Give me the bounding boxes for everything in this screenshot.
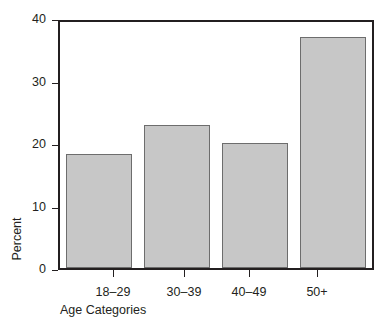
bar-40-49 bbox=[222, 143, 289, 268]
y-tick-label-0: 0 bbox=[39, 263, 46, 276]
x-tick-40-49 bbox=[249, 270, 250, 277]
bar-50-plus bbox=[300, 37, 367, 268]
bar-30-39 bbox=[144, 125, 211, 268]
x-axis-title: Age Categories bbox=[60, 303, 146, 317]
x-tick-30-39 bbox=[184, 270, 185, 277]
x-tick-label-40-49: 40–49 bbox=[232, 285, 267, 299]
y-tick-label-20: 20 bbox=[32, 138, 46, 151]
y-tick-label-40: 40 bbox=[32, 13, 46, 26]
plot-area bbox=[58, 20, 374, 270]
y-tick-label-30: 30 bbox=[32, 76, 46, 89]
x-tick-label-18-29: 18–29 bbox=[96, 285, 131, 299]
bar-chart: 40 30 20 10 0 Percent 18–29 30–39 40–49 … bbox=[0, 0, 391, 325]
y-axis-title: Percent bbox=[10, 199, 24, 279]
x-tick-50-plus bbox=[317, 270, 318, 277]
bar-18-29 bbox=[66, 154, 133, 268]
y-tick-label-10: 10 bbox=[32, 201, 46, 214]
x-tick-label-50-plus: 50+ bbox=[306, 285, 327, 299]
x-tick-label-30-39: 30–39 bbox=[167, 285, 202, 299]
y-tick-0 bbox=[52, 270, 58, 271]
x-tick-18-29 bbox=[113, 270, 114, 277]
